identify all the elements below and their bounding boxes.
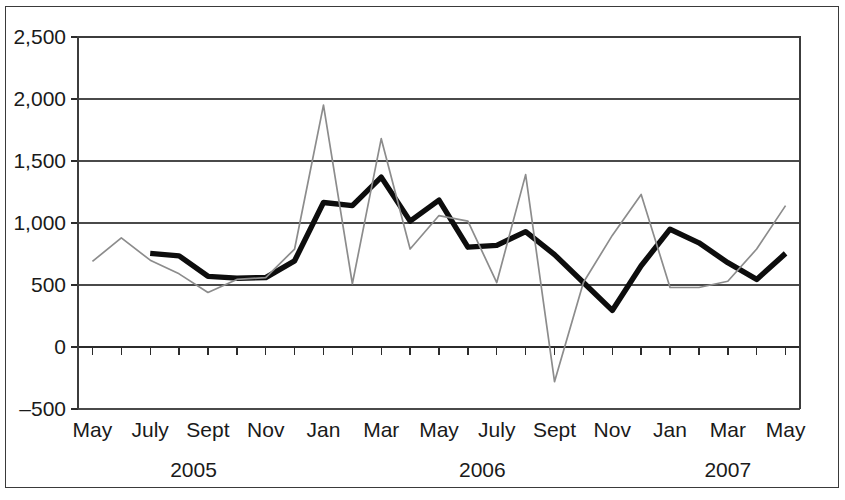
xtick-label-24: May: [766, 418, 806, 441]
ytick-label-1500: 1,500: [13, 149, 66, 172]
xtick-label-4: Sept: [186, 418, 229, 441]
xtick-label-20: Jan: [653, 418, 687, 441]
xtick-label-6: Nov: [247, 418, 285, 441]
year-label-2005: 2005: [170, 458, 217, 481]
xtick-label-10: Mar: [363, 418, 399, 441]
xtick-label-14: July: [478, 418, 516, 441]
xtick-label-18: Nov: [594, 418, 632, 441]
ytick-label-2500: 2,500: [13, 25, 66, 48]
data-series-secondary: [92, 105, 785, 382]
ytick-label-1000: 1,000: [13, 211, 66, 234]
year-label-2007: 2007: [704, 458, 751, 481]
xtick-label-12: May: [419, 418, 459, 441]
xtick-label-16: Sept: [533, 418, 576, 441]
ytick-label-0: 0: [54, 335, 66, 358]
ytick-label-2000: 2,000: [13, 87, 66, 110]
xtick-label-8: Jan: [307, 418, 341, 441]
ytick-label-500: 500: [31, 273, 66, 296]
year-label-2006: 2006: [459, 458, 506, 481]
line-chart: 2,5002,0001,5001,0005000–500MayJulySeptN…: [0, 0, 845, 500]
ytick-label--500: –500: [19, 397, 66, 420]
xtick-label-2: July: [132, 418, 170, 441]
xtick-label-22: Mar: [710, 418, 746, 441]
data-series-primary: [150, 177, 785, 310]
xtick-label-0: May: [73, 418, 113, 441]
chart-figure: 2,5002,0001,5001,0005000–500MayJulySeptN…: [0, 0, 845, 500]
